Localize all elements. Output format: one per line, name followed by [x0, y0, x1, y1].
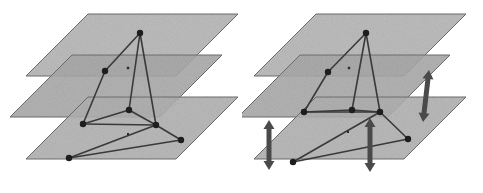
mark-small-mark-upper — [348, 67, 350, 69]
arrow-head-end — [365, 163, 376, 172]
node-node-a — [363, 30, 369, 36]
panel-left-network — [0, 0, 241, 193]
node-node-f — [405, 136, 411, 142]
arrow-head-end — [264, 161, 275, 170]
mark-small-mark-lower — [127, 133, 129, 135]
node-node-b — [102, 68, 108, 74]
arrow-head-start — [264, 120, 275, 129]
node-node-b — [325, 69, 331, 75]
panel-right-canvas — [242, 0, 483, 193]
node-node-g — [66, 155, 72, 161]
node-node-e — [377, 109, 383, 115]
figure-root — [0, 0, 483, 193]
node-node-e — [153, 122, 159, 128]
mark-small-mark-upper — [127, 67, 129, 69]
panel-right-network — [242, 0, 483, 193]
mark-small-mark-lower — [347, 131, 349, 133]
panel-left-canvas — [0, 0, 241, 193]
node-node-c — [126, 107, 132, 113]
edge-edge-d-e — [83, 124, 156, 125]
node-node-f — [178, 137, 184, 143]
node-node-c — [349, 107, 355, 113]
node-node-d — [301, 109, 307, 115]
node-node-a — [137, 30, 143, 36]
layers-group-right — [242, 14, 466, 159]
node-node-d — [80, 121, 86, 127]
node-node-g — [290, 159, 296, 165]
